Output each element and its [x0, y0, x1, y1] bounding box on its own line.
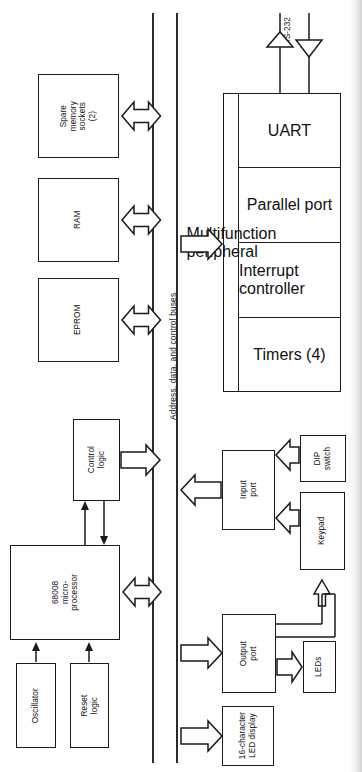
arrow-keypad-input-port	[276, 503, 299, 533]
connector-overlay	[0, 0, 362, 772]
arrowhead-oscillator-cpu	[32, 642, 40, 651]
arrowhead-reset-logic-cpu	[85, 642, 93, 651]
page-edge-rule	[350, 0, 351, 772]
arrowhead-cpu-to-control-logic	[81, 501, 89, 510]
arrow-bus-led-display	[181, 721, 222, 751]
arrow-eprom-bus	[122, 306, 161, 334]
arrow-bus-output-port	[181, 638, 222, 668]
rs232-driver-triangle	[267, 32, 293, 47]
arrow-input-port-bus	[181, 475, 221, 505]
arrow-output-port-leds	[277, 652, 302, 682]
rs232-receiver-triangle	[296, 40, 322, 57]
arrow-control-logic-bus	[121, 445, 160, 475]
arrow-ram-bus	[122, 206, 161, 234]
arrowhead-control-logic-to-cpu	[100, 536, 108, 545]
arrow-spare-memory-bus	[122, 102, 161, 130]
diagram-sheet: Address, data, and control buses EPROM R…	[0, 0, 362, 772]
arrow-dip-switch-input-port	[276, 440, 299, 470]
arrow-cpu-bus	[123, 578, 161, 606]
arrow-bus-mfp	[181, 229, 222, 259]
